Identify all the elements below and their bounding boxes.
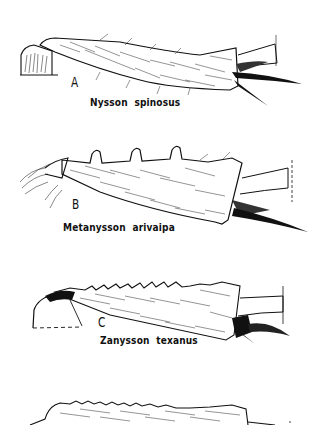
tibia-drawing-c [0,260,317,370]
hind-tibia-figure: A Nysson spinosus [0,0,317,425]
panel-letter: A [71,74,78,90]
panel-b: B Metanysson arivaipa [0,130,317,260]
panel-letter: B [72,196,79,212]
species-name: Zanysson texanus [100,334,198,347]
panel-a: A Nysson spinosus [0,0,317,130]
tibia-drawing-d [0,395,317,425]
species-name: Metanysson arivaipa [63,221,175,234]
panel-letter: C [98,314,105,330]
tibia-drawing-b [0,130,317,260]
panel-d-partial [0,395,317,425]
tibia-drawing-a [0,0,317,130]
species-name: Nysson spinosus [90,96,180,109]
panel-c: C Zanysson texanus [0,260,317,370]
